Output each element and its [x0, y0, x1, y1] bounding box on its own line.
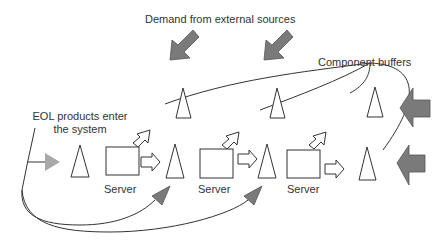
loop-arrowhead-1 — [152, 186, 170, 205]
demand-arrow-1 — [170, 30, 199, 60]
eol-loop-line — [22, 190, 248, 232]
buffer-bottom-2 — [166, 144, 184, 178]
flow-arrow-right-2 — [238, 150, 257, 168]
flow-arrow-up-3 — [309, 132, 326, 149]
server-label-1: Server — [104, 183, 136, 195]
server-box-1 — [106, 147, 139, 175]
server-box-3 — [287, 150, 320, 178]
buffer-top-2 — [270, 88, 285, 118]
flow-arrow-right-3 — [325, 160, 344, 178]
demand-arrow-2 — [264, 30, 293, 60]
server-label-2: Server — [198, 183, 230, 195]
server-label-3: Server — [287, 183, 319, 195]
demand-label: Demand from external sources — [145, 13, 295, 25]
buffer-bottom-1 — [71, 145, 89, 177]
buffer-top-1 — [176, 88, 191, 118]
buffer-bottom-3 — [258, 144, 276, 178]
loop-arrowhead-2 — [244, 186, 262, 205]
server-box-2 — [200, 149, 233, 178]
eol-label-line1: EOL products enter — [30, 110, 130, 122]
component-buffers-label: Component buffers — [318, 56, 411, 68]
flow-arrow-up-2 — [222, 132, 239, 149]
flow-arrow-up-1 — [133, 130, 150, 147]
buffer-bottom-4 — [359, 147, 376, 180]
flow-arrow-right-1 — [141, 153, 160, 171]
diagram-canvas: Demand from external sources Component b… — [0, 0, 440, 240]
demand-arrow-bottom-right — [397, 145, 425, 185]
demand-arrow-top-right — [400, 88, 430, 127]
connector-buffer-top1 — [165, 63, 370, 104]
eol-entry-arrowhead — [45, 153, 60, 171]
eol-label-line2: the system — [30, 123, 130, 135]
buffer-top-3 — [367, 87, 383, 117]
